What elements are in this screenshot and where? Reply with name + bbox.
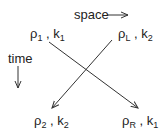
k-symbol: k (141, 26, 148, 41)
separator: , (130, 26, 141, 41)
k-symbol: k (53, 26, 60, 41)
k-subscript: 2 (64, 120, 69, 130)
rho-subscript: 1 (37, 33, 42, 43)
trajectory-line-2 (52, 40, 112, 108)
separator: , (136, 113, 147, 128)
node-bottom-left: ρ2 , k2 (34, 114, 69, 129)
k-subscript: 1 (60, 33, 65, 43)
rho-subscript: R (129, 120, 136, 130)
separator: , (46, 113, 57, 128)
rho-subscript: 2 (41, 120, 46, 130)
separator: , (42, 26, 53, 41)
trajectory-line-1 (49, 42, 138, 108)
k-symbol: k (57, 113, 64, 128)
node-top-left: ρ1 , k1 (30, 27, 65, 42)
space-label: space (74, 8, 109, 22)
time-label: time (8, 52, 33, 66)
node-bottom-right: ρR , k1 (122, 114, 158, 129)
node-top-right: ρL , k2 (118, 27, 153, 42)
k-subscript: 2 (148, 33, 153, 43)
rho-subscript: L (125, 33, 130, 43)
k-subscript: 1 (153, 120, 158, 130)
